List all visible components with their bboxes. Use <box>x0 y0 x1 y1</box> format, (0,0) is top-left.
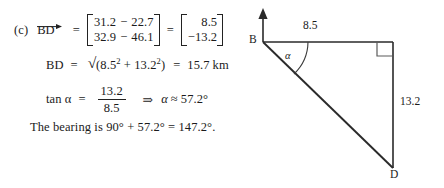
side-label-right: 13.2 <box>400 95 420 107</box>
part-label: (c) <box>14 23 28 38</box>
worked-solution-page: (c) BD = 31.2−22.7 32.9−46.1 <box>0 0 444 188</box>
magnitude-value: 15.7 <box>187 58 209 73</box>
north-arrow-icon <box>258 8 267 42</box>
radical-sign: √ <box>88 57 97 70</box>
right-angle-marker <box>377 42 392 56</box>
approx-symbol: ≈ <box>171 92 178 107</box>
matrix-result: 8.5 −13.2 <box>181 14 223 46</box>
m2-a: 32.9 <box>94 30 116 44</box>
magnitude-unit: km <box>213 58 229 73</box>
m2-b: 46.1 <box>131 30 153 44</box>
solution-text-block: (c) BD = 31.2−22.7 32.9−46.1 <box>0 0 240 188</box>
square-root-expression: √ (8.52 + 13.22) <box>88 58 165 73</box>
fraction: 13.2 8.5 <box>98 84 126 115</box>
tangent-equals: = <box>78 92 85 107</box>
vector-name-text: BD <box>37 23 55 37</box>
radicand-open: (8.5 <box>96 58 116 72</box>
magnitude-equals-2: = <box>173 58 180 73</box>
vector-difference-line: (c) BD = 31.2−22.7 32.9−46.1 <box>14 14 223 46</box>
tangent-lhs: tan α <box>46 92 71 107</box>
angle-symbol: α <box>161 92 168 107</box>
m1-a: 31.2 <box>94 15 116 29</box>
result-row-1: 8.5 <box>188 15 217 30</box>
m1-b: 22.7 <box>131 15 153 29</box>
matrix-row-1: 31.2−22.7 <box>94 15 154 30</box>
equals-sign-2: = <box>167 23 174 38</box>
bearing-triangle-diagram: B D 8.5 13.2 α <box>240 0 444 188</box>
bearing-sentence: The bearing is 90° + 57.2° = 147.2°. <box>30 120 215 135</box>
m1-op: − <box>116 15 131 30</box>
fraction-numerator: 13.2 <box>98 84 124 99</box>
angle-arc <box>294 42 308 74</box>
magnitude-equals: = <box>71 58 78 73</box>
result-row-2: −13.2 <box>188 30 217 45</box>
angle-value: 57.2° <box>181 92 208 107</box>
implies-symbol: ⇒ <box>143 92 154 108</box>
radicand-plus: + 13.2 <box>121 58 157 72</box>
matrix-difference: 31.2−22.7 32.9−46.1 <box>87 14 160 46</box>
fraction-denominator: 8.5 <box>102 100 122 115</box>
m2-op: − <box>116 30 131 45</box>
vertex-label-d: D <box>390 168 398 180</box>
equals-sign-1: = <box>73 23 80 38</box>
radicand-close: ) <box>161 58 165 72</box>
magnitude-lhs: BD <box>46 58 64 73</box>
matrix-row-2: 32.9−46.1 <box>94 30 154 45</box>
triangle-side-hypotenuse <box>263 42 393 168</box>
side-label-top: 8.5 <box>303 19 317 31</box>
angle-label-alpha: α <box>285 50 291 61</box>
radicand: (8.52 + 13.22) <box>96 58 165 73</box>
triangle-svg <box>240 0 444 188</box>
vector-bd-label: BD <box>37 23 55 38</box>
vertex-label-b: B <box>249 33 257 45</box>
magnitude-line: BD = √ (8.52 + 13.22) = 15.7 km <box>46 58 229 73</box>
tangent-line: tan α = 13.2 8.5 ⇒ α ≈ 57.2° <box>46 84 208 115</box>
